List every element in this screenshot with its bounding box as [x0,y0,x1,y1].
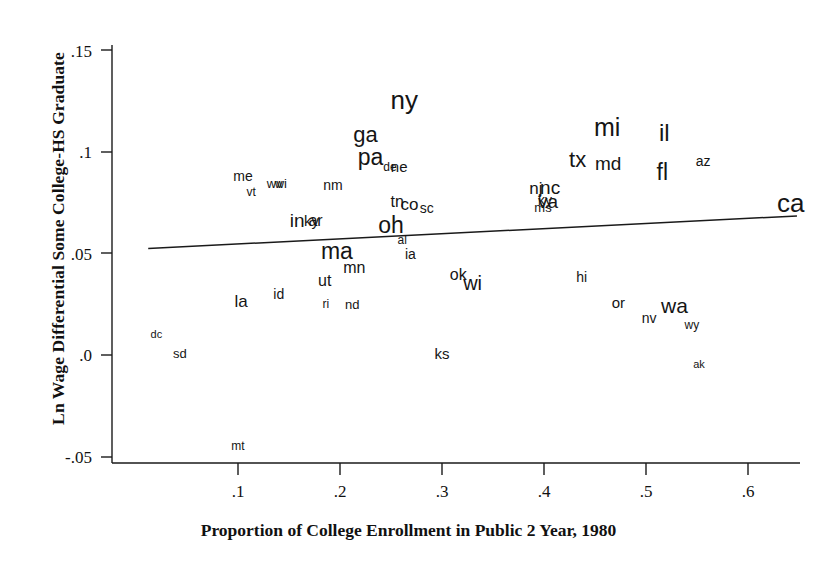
data-point-label-dc: dc [151,328,163,339]
y-tick-label: .1 [22,144,92,161]
data-point-label-wi: wi [275,177,287,190]
data-point-label-hi: hi [576,270,587,284]
data-point-label-sc: sc [420,201,434,215]
data-point-label-ak: ak [693,359,705,370]
data-point-label-mi: mi [594,114,620,139]
data-point-label-in: in [290,211,305,230]
data-point-label-ny: ny [391,87,418,113]
data-point-label-id: id [273,287,284,301]
x-tick-label: .5 [626,483,666,500]
x-tick-label: .3 [422,483,462,500]
data-point-label-me: me [233,169,252,183]
data-point-label-sd: sd [173,346,187,359]
x-tick-label: .2 [320,483,360,500]
data-point-label-vt: vt [247,186,256,198]
data-point-label-la: la [234,293,247,310]
data-point-label-wi: wi [463,273,482,293]
data-point-label-ms: ms [534,200,551,213]
x-tick-label: .4 [524,483,564,500]
x-tick-label: .1 [218,483,258,500]
data-point-label-or: or [612,295,625,310]
data-point-label-ca: ca [777,190,804,216]
data-point-label-ar: ar [308,213,322,229]
data-point-label-wa: wa [661,295,688,316]
data-point-label-nv: nv [642,311,657,325]
y-tick-label: .0 [22,347,92,364]
data-point-label-az: az [696,154,711,168]
y-tick-label: .15 [22,43,92,60]
scatter-plot-figure: Ln Wage Differential Some College-HS Gra… [0,0,817,573]
data-point-label-nm: nm [323,178,342,192]
data-point-label-mt: mt [231,440,244,452]
data-point-label-al: al [398,234,407,246]
data-point-label-mn: mn [343,260,365,276]
data-point-label-ga: ga [353,124,377,146]
data-point-label-ri: ri [322,298,329,310]
y-tick-label: -.05 [22,449,92,466]
data-point-label-ks: ks [435,345,450,360]
regression-fit-line [148,216,797,248]
data-point-label-co: co [400,195,418,212]
data-point-label-fl: fl [657,161,669,184]
x-tick-label: .6 [728,483,768,500]
data-point-label-pa: pa [358,146,384,169]
data-point-label-wy: wy [685,319,700,331]
data-point-label-tx: tx [569,149,586,171]
data-point-label-nd: nd [345,298,359,311]
data-point-label-ia: ia [405,247,416,261]
x-axis-ticks [238,463,748,475]
data-point-label-md: md [595,154,621,173]
data-point-label-ne: ne [391,159,408,174]
data-point-label-ut: ut [318,273,331,289]
data-point-label-il: il [659,121,670,145]
y-axis-ticks [101,50,112,457]
y-tick-label: .05 [22,246,92,263]
